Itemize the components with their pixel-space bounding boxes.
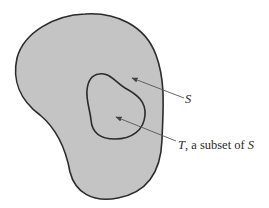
label-t: T, a subset of S <box>178 139 254 152</box>
label-s-symbol: S <box>185 92 191 106</box>
label-t-ref: S <box>248 138 254 152</box>
venn-diagram <box>0 0 269 208</box>
label-s: S <box>185 93 191 106</box>
label-t-text: , a subset of <box>185 138 248 152</box>
label-t-symbol: T <box>178 138 185 152</box>
